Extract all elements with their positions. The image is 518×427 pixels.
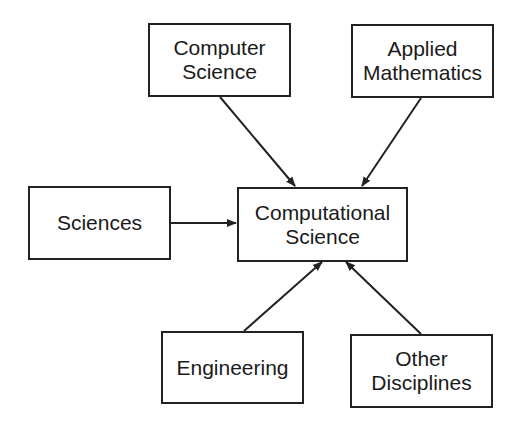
node-label-line: Other xyxy=(371,347,471,371)
node-label-line: Disciplines xyxy=(371,371,471,395)
node-label-line: Science xyxy=(255,225,390,249)
node-applied-mathematics: AppliedMathematics xyxy=(351,24,494,98)
arrow-engineering-to-computational-science xyxy=(244,262,322,331)
arrow-other-disciplines-to-computational-science xyxy=(346,262,421,334)
node-label-line: Engineering xyxy=(176,356,288,380)
node-label-line: Mathematics xyxy=(363,61,482,85)
node-computer-science: ComputerScience xyxy=(148,23,291,97)
node-label-line: Computational xyxy=(255,201,390,225)
node-other-disciplines: OtherDisciplines xyxy=(350,334,493,408)
arrow-computer-science-to-computational-science xyxy=(220,97,295,186)
node-engineering: Engineering xyxy=(161,331,304,404)
arrow-applied-mathematics-to-computational-science xyxy=(362,98,421,186)
node-sciences: Sciences xyxy=(28,186,171,260)
node-label-line: Sciences xyxy=(57,211,142,235)
node-label-line: Applied xyxy=(363,37,482,61)
node-label-line: Computer xyxy=(173,36,265,60)
node-computational-science: ComputationalScience xyxy=(237,187,408,262)
node-label-line: Science xyxy=(173,60,265,84)
